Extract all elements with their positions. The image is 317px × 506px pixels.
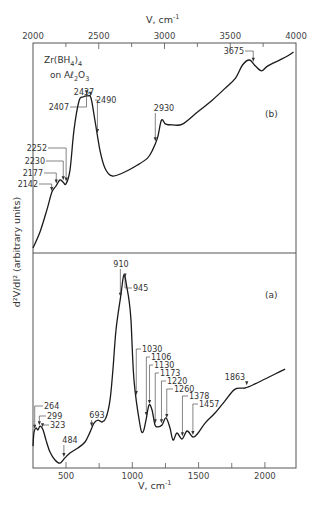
leader-line — [46, 161, 63, 177]
sample-label-line2: on Aℓ2O3 — [50, 70, 89, 83]
arrowhead — [62, 453, 65, 457]
panel-label-b: (b) — [265, 109, 278, 119]
tick-label: 2000 — [254, 471, 276, 481]
peak-label: 2407 — [49, 103, 69, 112]
arrowhead — [38, 421, 41, 425]
leader-line — [155, 373, 159, 420]
peak-label: 2252 — [27, 144, 47, 153]
peak-annotation: 1863 — [225, 373, 249, 385]
sample-label-line1: Zr(BH4)4 — [44, 55, 82, 68]
arrowhead — [62, 176, 65, 180]
tick-label: 1000 — [121, 471, 143, 481]
tick-label: 2500 — [88, 31, 110, 41]
peak-label: 484 — [62, 436, 77, 445]
tick-label: 3000 — [154, 31, 176, 41]
leader-line — [161, 381, 166, 420]
peak-label: 910 — [113, 260, 128, 269]
leader-line — [44, 173, 56, 181]
peak-label: 2230 — [25, 157, 45, 166]
leader-line — [193, 404, 198, 432]
top-axis-ticks: 20002500300035004000 — [22, 31, 307, 49]
arrowhead — [148, 400, 151, 404]
arrowhead — [245, 381, 248, 385]
leader-line — [167, 389, 173, 415]
peak-label: 1863 — [225, 373, 245, 382]
panel-label-a: (a) — [265, 290, 278, 300]
tick-label: 4000 — [285, 31, 307, 41]
leader-line — [245, 51, 253, 59]
peak-label: 2930 — [154, 104, 174, 113]
leader-line — [150, 365, 153, 401]
spectrum-figure: V, cm-1 V, cm-1 d²V/dI² (arbitrary units… — [0, 0, 317, 506]
leader-line — [136, 349, 141, 392]
peak-label: 2177 — [23, 169, 43, 178]
peak-label: 693 — [89, 411, 104, 420]
peak-annotation: 2437 — [74, 88, 94, 97]
tick-label: 2000 — [22, 31, 44, 41]
leader-line — [39, 184, 52, 188]
y-axis-title: d²V/dI² (arbitrary units) — [11, 197, 22, 307]
series-line-b — [33, 52, 294, 248]
peak-label: 2490 — [96, 96, 116, 105]
leader-line — [182, 396, 188, 433]
peak-annotation: 484 — [62, 436, 77, 457]
tick-label: 1500 — [188, 471, 210, 481]
peak-label: 323 — [50, 421, 65, 430]
peak-annotation: 323 — [41, 421, 65, 430]
peak-label: 299 — [47, 412, 62, 421]
peak-annotation: 2490 — [95, 96, 116, 133]
arrowhead — [191, 431, 194, 435]
panel-b-annotations: 214221772230225224072437249029303675 — [18, 47, 255, 191]
peak-label: 2142 — [18, 180, 38, 189]
peak-label: 1457 — [199, 400, 219, 409]
peak-annotation: 693 — [89, 411, 104, 426]
peak-annotation: 1220 — [160, 377, 187, 423]
peak-annotation: 1378 — [181, 392, 210, 436]
peak-annotation: 1457 — [191, 400, 219, 435]
peak-label: 264 — [44, 402, 59, 411]
panel-b-series — [33, 52, 294, 248]
tick-label: 3500 — [219, 31, 241, 41]
peak-annotation: 2142 — [18, 180, 54, 191]
tick-label: 500 — [58, 471, 74, 481]
peak-label: 945 — [133, 284, 148, 293]
peak-annotation: 1260 — [165, 385, 194, 418]
top-axis-title: V, cm-1 — [146, 13, 180, 25]
peak-label: 3675 — [224, 47, 244, 56]
